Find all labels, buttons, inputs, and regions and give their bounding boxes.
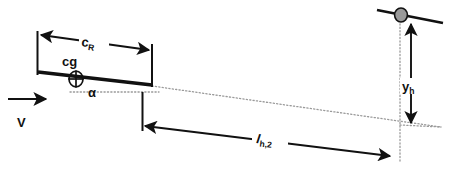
diagram-canvas: cR cg α V lh,2 yh	[0, 0, 452, 183]
velocity-label: V	[17, 115, 26, 130]
wing-chord-line	[38, 72, 152, 85]
extended-chord-reference-line	[152, 86, 441, 127]
tail-aerodynamic-center-marker	[395, 8, 408, 22]
angle-of-attack-label: α	[88, 85, 96, 100]
tail-chord-line	[377, 10, 443, 23]
cg-marker-icon	[68, 71, 83, 88]
aerodynamics-geometry-diagram: cR cg α V lh,2 yh	[0, 0, 452, 183]
cg-label: cg	[62, 54, 77, 69]
